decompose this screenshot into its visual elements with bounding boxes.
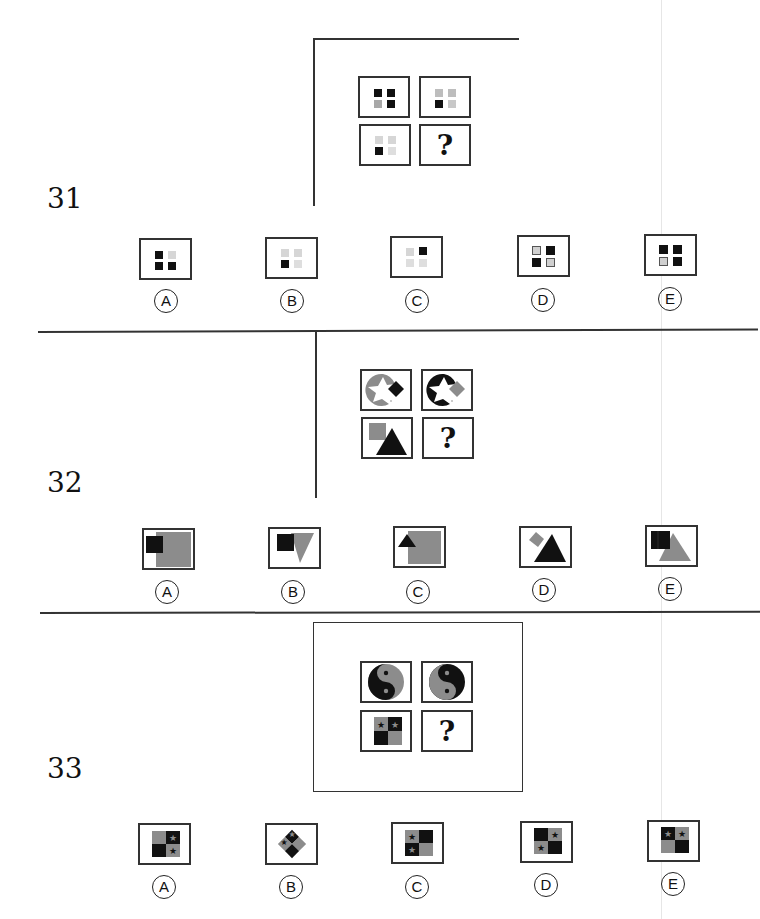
puzzle-frame-left-edge [315,331,317,498]
option-c-figure[interactable] [390,236,443,278]
square-lightgray [168,251,176,259]
grid-cell-unknown: ? [422,417,474,459]
square-black [673,257,682,266]
option-e-figure[interactable] [644,234,697,276]
question-number: 32 [47,466,83,499]
square-black [374,89,382,97]
option-d-figure[interactable] [519,526,572,568]
option-a-figure[interactable] [139,238,192,280]
section-divider [40,611,760,614]
square-lightgray [388,136,396,144]
option-e-label[interactable]: E [658,287,682,311]
quad-square-stars-icon: ★ ★ [140,825,189,863]
option-c-label[interactable]: C [405,875,429,899]
svg-text:★: ★ [169,833,177,843]
option-e-figure[interactable] [645,525,698,567]
square-lightgray [294,260,302,268]
square-lightgray [388,147,396,155]
question-mark: ? [424,421,472,457]
option-b-figure[interactable] [265,237,318,279]
option-d-label[interactable]: D [532,578,556,602]
square-outlined-lightgray [532,246,541,255]
svg-text:★: ★ [664,829,672,839]
circle-star-diamond-icon [362,371,410,409]
svg-text:★: ★ [678,829,686,839]
square-gray [448,89,456,97]
square-black [375,147,383,155]
square-black [673,245,682,254]
question-mark: ? [423,714,471,750]
square-outlined-lightgray [659,257,668,266]
svg-text:★: ★ [537,843,545,853]
option-c-figure[interactable] [393,526,446,568]
option-d-figure[interactable] [517,235,570,277]
square-gray [374,100,382,108]
grid-cell-2 [421,661,473,703]
option-d-label[interactable]: D [531,288,555,312]
square-black [546,246,555,255]
option-e-figure[interactable]: ★ ★ [647,820,700,862]
option-e-label[interactable]: E [658,577,682,601]
question-mark: ? [421,128,469,164]
svg-text:★: ★ [408,832,416,842]
square-lightgray [406,259,414,267]
square-gray [448,100,456,108]
square-black [168,262,176,270]
option-a-figure[interactable] [142,528,195,570]
square-lightgray [281,249,289,257]
option-b-label[interactable]: B [279,875,303,899]
svg-text:★: ★ [288,830,295,839]
square-lightgray [406,248,414,256]
gray-diamond-behind-black-triangle-icon [521,528,570,566]
option-a-figure[interactable]: ★ ★ [138,823,191,865]
grid-cell-2 [419,76,471,118]
square-black [419,247,427,255]
grid-cell-2 [421,369,473,411]
square-lightgray [375,136,383,144]
svg-text:★: ★ [391,720,399,730]
option-b-label[interactable]: B [281,580,305,604]
svg-text:★: ★ [408,845,416,855]
square-black [532,258,541,267]
circle-star-diamond-icon [423,371,471,409]
option-b-label[interactable]: B [280,289,304,313]
black-triangle-over-gray-square-icon [395,528,444,566]
question-number: 31 [47,182,83,215]
black-rectangle-over-gray-triangle-icon [647,527,696,565]
option-d-figure[interactable]: ★ ★ [520,821,573,863]
svg-text:★: ★ [280,838,287,847]
black-square-over-gray-square-icon [144,530,193,568]
quad-square-stars-icon: ★ ★ [393,824,442,862]
option-e-label[interactable]: E [661,872,685,896]
option-c-label[interactable]: C [406,580,430,604]
square-black [155,262,163,270]
question-number: 33 [47,752,83,785]
square-black [387,89,395,97]
puzzle-frame [313,622,523,792]
puzzle-frame-top-edge [314,38,519,40]
svg-text:★: ★ [377,720,385,730]
option-d-label[interactable]: D [534,873,558,897]
square-black [155,251,163,259]
square-lightgray [419,259,427,267]
option-b-figure[interactable]: ★ ★ [265,823,318,865]
grid-cell-1 [358,76,410,118]
quad-square-stars-icon: ★ ★ [362,712,410,750]
section-divider [38,328,758,332]
option-a-label[interactable]: A [155,580,179,604]
option-a-label[interactable]: A [154,289,178,313]
option-a-label[interactable]: A [152,875,176,899]
puzzle-frame-left-edge [313,38,315,206]
quad-diamond-stars-icon: ★ ★ [267,825,316,863]
grid-cell-unknown: ? [421,710,473,752]
square-gray [435,89,443,97]
scan-artifact-line [661,0,662,919]
grid-cell-1 [360,369,412,411]
grid-cell-unknown: ? [419,124,471,166]
yin-yang-icon [362,663,410,701]
svg-text:★: ★ [169,846,177,856]
option-c-figure[interactable]: ★ ★ [391,822,444,864]
option-c-label[interactable]: C [405,289,429,313]
grid-cell-1 [360,661,412,703]
option-b-figure[interactable] [268,527,321,569]
